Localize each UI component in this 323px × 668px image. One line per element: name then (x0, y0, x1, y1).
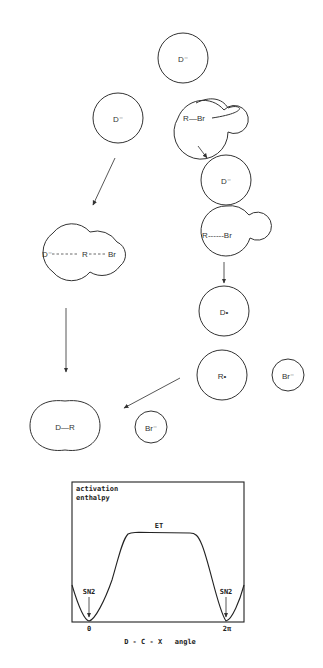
nucleophile-label: D⁻ (178, 55, 188, 64)
sn2-right-annotation: SN2 (220, 588, 233, 596)
alkyl-radical-label: R• (218, 372, 227, 381)
nucleophile-radical: D• (199, 286, 249, 336)
et-approach-nucleophile: D⁻ (201, 155, 251, 205)
y-axis-label-line2: enthalpy (76, 494, 111, 502)
et-substrate-label: R------Br (202, 231, 232, 240)
bromide-left: Br⁻ (135, 411, 167, 443)
sn2-left-annotation: SN2 (83, 588, 96, 596)
x-tick-2pi: 2π (223, 625, 232, 633)
ts-leaving-label: Br (108, 250, 116, 259)
product-dr: D—R (30, 401, 100, 451)
substrate-label: R—Br (183, 114, 205, 123)
ts-nucleophile-label: D⁻ (42, 250, 52, 259)
ts-carbon-label: R (82, 250, 88, 259)
bromide-left-label: Br⁻ (145, 424, 157, 433)
reactant-substrate: R—Br (174, 99, 248, 159)
et-annotation: ET (155, 522, 163, 530)
et-approach-substrate: R------Br (201, 206, 271, 256)
left-nucleophile-label: D⁻ (113, 115, 123, 124)
x-tick-0: 0 (87, 625, 91, 633)
bromide-right: Br⁻ (272, 359, 304, 391)
product-label: D—R (55, 423, 75, 432)
et-nucleophile-label: D⁻ (221, 177, 231, 186)
alkyl-radical: R• (197, 350, 247, 400)
reactant-nucleophile: D⁻ (158, 33, 208, 83)
enthalpy-curve (72, 532, 244, 621)
sn2-transition-state: D⁻ R Br (42, 224, 126, 281)
y-axis-label-line1: activation (76, 485, 118, 493)
nucleophile-radical-label: D• (220, 308, 229, 317)
x-axis-label: D - C - X angle (124, 638, 196, 646)
energy-chart: activation enthalpy ET SN2 SN2 0 2π D - … (72, 482, 244, 646)
arrow-radical-recombination (124, 378, 180, 408)
left-nucleophile: D⁻ (93, 93, 143, 143)
bromide-right-label: Br⁻ (282, 372, 294, 381)
arrow-to-transition-state (93, 158, 115, 205)
mechanism-diagram: D⁻ R—Br D⁻ D⁻ R Br D⁻ R------Br D• (0, 0, 323, 668)
arrow-to-electron-transfer (198, 146, 207, 158)
